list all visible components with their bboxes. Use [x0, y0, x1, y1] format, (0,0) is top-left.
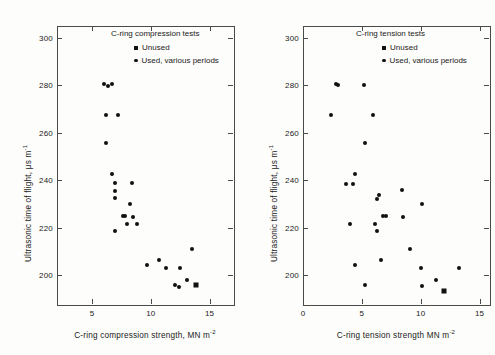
y-tick-mark	[57, 85, 62, 86]
legend-entry-unused-compression: Unused	[134, 42, 170, 53]
y-tick-mark-right	[484, 85, 489, 86]
circle-marker-icon	[134, 59, 138, 63]
y-tick-mark-right	[484, 275, 489, 276]
y-tick-mark-right	[228, 180, 233, 181]
data-point-used	[190, 247, 194, 251]
y-tick-label: 300	[279, 33, 299, 42]
x-axis-title-text-tension: C-ring tension strength MN m	[337, 331, 450, 340]
x-tick-label: 0	[301, 309, 306, 318]
data-point-used	[164, 266, 168, 270]
panel-compression: 51015200220240260280300 C-ring compressi…	[0, 0, 247, 355]
circle-marker-icon	[382, 59, 386, 63]
y-tick-label: 240	[279, 176, 299, 185]
y-tick-mark-right	[228, 275, 233, 276]
data-point-used	[178, 266, 182, 270]
data-point-used	[351, 182, 355, 186]
legend-compression: C-ring compression tests Unused Used, va…	[111, 28, 239, 68]
data-point-used	[353, 263, 357, 267]
y-tick-mark-right	[228, 228, 233, 229]
legend-entry-used-compression: Used, various periods	[134, 55, 219, 66]
y-tick-mark-right	[484, 228, 489, 229]
y-tick-mark-right	[228, 133, 233, 134]
y-tick-label: 300	[33, 33, 53, 42]
data-point-used	[123, 214, 127, 218]
data-point-used	[135, 222, 139, 226]
y-tick-label: 220	[279, 223, 299, 232]
x-tick-mark	[480, 299, 481, 304]
x-tick-mark	[362, 299, 363, 304]
y-tick-mark-right	[228, 85, 233, 86]
x-axis-title-compression: C-ring compression strength, MN m-2	[74, 329, 216, 340]
y-tick-mark	[303, 275, 308, 276]
plot-area-tension	[304, 27, 490, 305]
data-point-used	[329, 113, 333, 117]
data-point-unused	[442, 288, 447, 293]
y-tick-mark	[57, 180, 62, 181]
figure-scatter-pair: 51015200220240260280300 C-ring compressi…	[0, 0, 495, 355]
y-tick-label: 200	[33, 271, 53, 280]
data-point-used	[145, 263, 149, 267]
data-point-used	[384, 214, 388, 218]
data-point-used	[419, 266, 423, 270]
square-marker-icon	[382, 46, 386, 50]
data-point-used	[104, 141, 108, 145]
data-point-used	[434, 278, 438, 282]
y-axis-title-sup-tension: -1	[268, 145, 274, 151]
y-axis-title-text-tension: Ultrasonic time of flight, μs m	[270, 151, 279, 262]
data-point-used	[420, 202, 424, 206]
x-tick-label: 15	[475, 309, 484, 318]
x-tick-mark	[151, 299, 152, 304]
x-axis-title-tension: C-ring tension strength MN m-2	[337, 329, 455, 340]
plot-area-compression	[58, 27, 234, 305]
data-point-used	[408, 247, 412, 251]
y-tick-label: 200	[279, 271, 299, 280]
data-point-used	[185, 278, 189, 282]
x-tick-mark	[303, 299, 304, 304]
data-point-used	[375, 197, 379, 201]
plot-frame-tension	[303, 26, 491, 306]
y-tick-mark-right	[484, 133, 489, 134]
x-tick-label: 10	[416, 309, 425, 318]
legend-tension: C-ring tension tests Unused Used, variou…	[356, 28, 488, 68]
x-tick-label: 15	[205, 309, 214, 318]
data-point-used	[157, 258, 161, 262]
data-point-used	[177, 285, 181, 289]
data-point-used	[348, 222, 352, 226]
y-tick-mark	[57, 275, 62, 276]
data-point-used	[377, 193, 381, 197]
y-tick-label: 220	[33, 223, 53, 232]
y-tick-label: 240	[33, 176, 53, 185]
x-axis-title-sup-tension: -2	[449, 329, 455, 335]
legend-title-tension: C-ring tension tests	[356, 28, 425, 39]
y-tick-mark	[303, 228, 308, 229]
y-tick-label: 280	[279, 81, 299, 90]
x-tick-label: 5	[90, 309, 95, 318]
y-tick-mark	[303, 38, 308, 39]
legend-label-unused-compression: Unused	[142, 42, 170, 53]
y-tick-label: 260	[33, 128, 53, 137]
data-point-used	[420, 284, 424, 288]
data-point-unused	[194, 282, 199, 287]
x-tick-mark-top	[303, 26, 304, 31]
x-tick-label: 5	[360, 309, 365, 318]
y-tick-mark	[57, 133, 62, 134]
data-point-used	[401, 215, 405, 219]
legend-label-used-tension: Used, various periods	[390, 55, 467, 66]
data-point-used	[113, 229, 117, 233]
square-marker-icon	[134, 46, 138, 50]
data-point-used	[344, 182, 348, 186]
y-axis-title-tension: Ultrasonic time of flight, μs m-1	[268, 145, 279, 262]
data-point-used	[400, 188, 404, 192]
x-axis-title-text-compression: C-ring compression strength, MN m	[74, 331, 210, 340]
y-axis-title-compression: Ultrasonic time of flight, μs m-1	[22, 145, 33, 262]
data-point-used	[379, 258, 383, 262]
data-point-used	[113, 196, 117, 200]
data-point-used	[128, 202, 132, 206]
legend-entry-unused-tension: Unused	[382, 42, 418, 53]
legend-title-compression: C-ring compression tests	[111, 28, 199, 39]
data-point-used	[110, 172, 114, 176]
plot-frame-compression	[57, 26, 235, 306]
y-tick-mark	[57, 228, 62, 229]
y-tick-mark	[303, 133, 308, 134]
y-tick-mark	[303, 85, 308, 86]
